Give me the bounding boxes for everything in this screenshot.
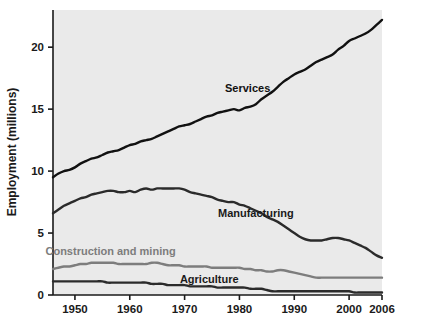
series-label-agriculture: Agriculture bbox=[180, 273, 239, 285]
x-tick-label: 1950 bbox=[62, 303, 88, 315]
series-label-construction-and-mining: Construction and mining bbox=[45, 245, 175, 257]
x-tick-label: 2006 bbox=[369, 303, 395, 315]
x-tick-label: 1980 bbox=[227, 303, 253, 315]
y-tick-label: 15 bbox=[31, 103, 44, 115]
y-tick-label: 20 bbox=[31, 41, 44, 53]
x-tick-label: 1970 bbox=[172, 303, 198, 315]
series-label-manufacturing: Manufacturing bbox=[218, 207, 294, 219]
y-axis-ticks-group: 05101520 bbox=[31, 41, 53, 301]
x-tick-label: 1990 bbox=[281, 303, 307, 315]
y-tick-label: 0 bbox=[38, 289, 44, 301]
employment-line-chart: 05101520 1950196019701980199020002006 Se… bbox=[0, 0, 425, 326]
x-axis-ticks-group: 1950196019701980199020002006 bbox=[62, 295, 395, 315]
series-label-services: Services bbox=[225, 82, 270, 94]
y-tick-label: 5 bbox=[38, 227, 45, 239]
x-tick-label: 2000 bbox=[336, 303, 362, 315]
y-axis-title: Employment (millions) bbox=[5, 88, 19, 217]
chart-canvas: 05101520 1950196019701980199020002006 Se… bbox=[0, 0, 425, 326]
y-tick-label: 10 bbox=[31, 165, 44, 177]
x-tick-label: 1960 bbox=[117, 303, 143, 315]
